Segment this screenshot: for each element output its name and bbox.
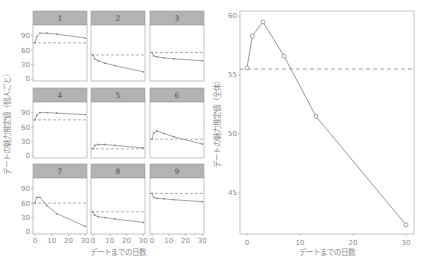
overall-line-chart: 455055600102030デートまでの日数デートの魅力推定値（全体） bbox=[0, 0, 423, 267]
data-point-marker bbox=[282, 54, 286, 58]
data-point-marker bbox=[245, 66, 249, 70]
y-tick-label: 50 bbox=[228, 130, 237, 138]
plot-area bbox=[240, 11, 414, 234]
overall-chart-group: 455055600102030 bbox=[228, 11, 414, 247]
y-axis-title: デートの魅力推定値（全体） bbox=[212, 77, 222, 168]
x-axis-title: デートまでの日数 bbox=[299, 247, 356, 257]
chart-figure: 1030609023403060905670306090010203080102… bbox=[0, 0, 423, 267]
y-tick-label: 60 bbox=[228, 12, 237, 20]
y-tick-label: 55 bbox=[228, 71, 237, 79]
x-tick-label: 0 bbox=[245, 239, 249, 247]
y-tick-label: 45 bbox=[228, 189, 237, 197]
data-point-marker bbox=[250, 34, 254, 38]
data-point-marker bbox=[404, 223, 408, 227]
x-tick-label: 20 bbox=[349, 239, 358, 247]
x-tick-label: 10 bbox=[296, 239, 305, 247]
x-tick-label: 30 bbox=[402, 239, 411, 247]
data-point-marker bbox=[314, 114, 318, 118]
data-point-marker bbox=[261, 20, 265, 24]
